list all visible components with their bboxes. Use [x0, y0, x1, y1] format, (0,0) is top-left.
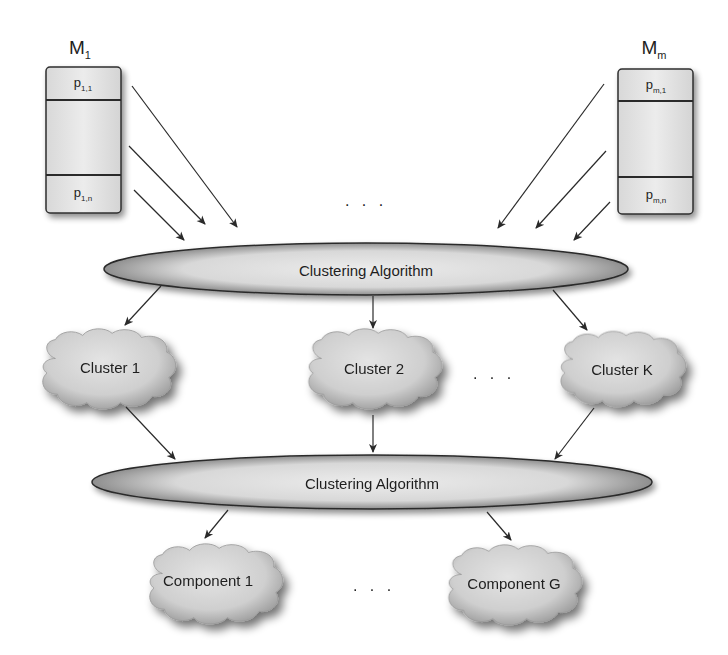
partition-pm1-label: pm,1: [646, 77, 667, 95]
cluster-k-label: Cluster K: [591, 361, 653, 378]
component-g-label: Component G: [467, 575, 560, 592]
component-ellipsis: . . .: [353, 577, 395, 595]
cluster-1-label: Cluster 1: [80, 359, 140, 376]
partition-pmn-label: pm,n: [646, 187, 667, 205]
stage1-algorithm-label: Clustering Algorithm: [299, 262, 433, 279]
partition-p1n-label: p1,n: [74, 185, 92, 203]
stage2-algorithm-label: Clustering Algorithm: [305, 475, 439, 492]
model-m1-label: M1: [69, 37, 91, 61]
diagram-canvas: [0, 0, 728, 655]
cluster-2-label: Cluster 2: [344, 360, 404, 377]
partition-p11-label: p1,1: [74, 75, 92, 93]
arrows-stage2-to-components: [205, 510, 511, 540]
component-1-label: Component 1: [163, 572, 253, 589]
arrows-mm-to-stage1: [498, 84, 610, 240]
cluster-ellipsis: . . .: [473, 365, 515, 383]
model-mm-label: Mm: [642, 37, 667, 61]
arrows-clusters-to-stage2: [126, 407, 594, 459]
arrows-m1-to-stage1: [129, 86, 237, 240]
model-ellipsis: . . .: [345, 192, 387, 210]
